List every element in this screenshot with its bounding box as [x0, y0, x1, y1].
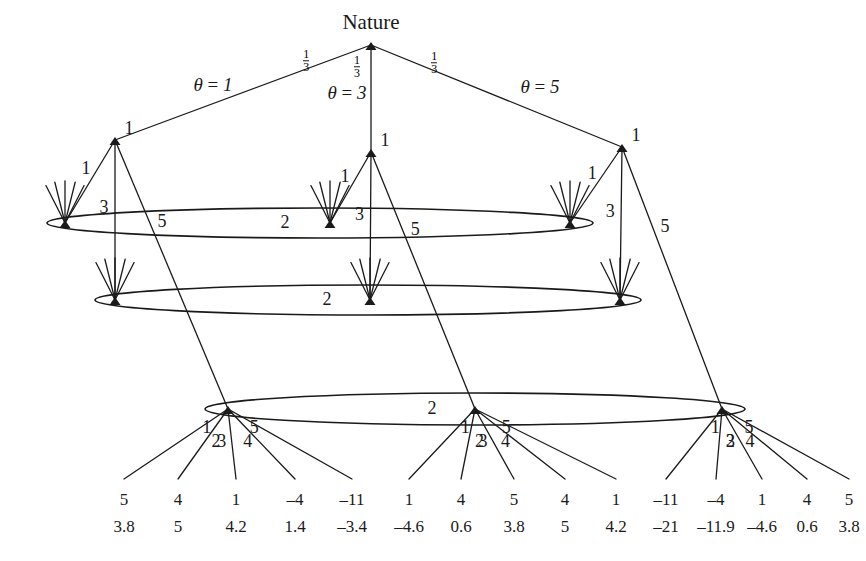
payoff-top-group-middle-4: 4: [561, 490, 570, 510]
payoff-top-group-left-1: 5: [120, 490, 129, 510]
terminal-action-label-group-left-3: 3: [217, 431, 226, 452]
payoff-top-group-left-3: 1: [232, 490, 241, 510]
terminal-action-label-group-right-1: 1: [711, 417, 720, 438]
iset-msg-3-stub-1-4: [370, 263, 389, 300]
nature-root-label: Nature: [342, 10, 399, 35]
iset-msg-5-node-0: [223, 406, 234, 414]
payoff-bottom-group-left-5: –3.4: [337, 517, 367, 537]
payoff-top-group-middle-5: 1: [612, 490, 621, 510]
iset-msg-1-stub-1-1: [320, 182, 330, 223]
payoff-bottom-group-middle-5: 4.2: [605, 517, 626, 537]
payoff-bottom-group-right-2: –11.9: [697, 517, 735, 537]
payoff-top-group-middle-3: 5: [510, 490, 519, 510]
payoff-top-group-middle-1: 1: [405, 490, 414, 510]
p1-action-label-p1-middle-1: 1: [341, 166, 350, 187]
terminal-edge-group-middle-4: [475, 409, 565, 479]
iset-msg-3-player-label: 2: [323, 289, 332, 310]
game-tree-figure: Nature 13θ = 113θ = 313θ = 5113511351135…: [0, 0, 866, 561]
payoff-bottom-group-left-2: 5: [174, 517, 183, 537]
iset-msg-1-stub-1-3: [330, 182, 340, 223]
iset-msg-3-node-2: [615, 297, 626, 305]
p1-action-label-p1-right-1: 1: [588, 162, 597, 183]
payoff-bottom-group-right-4: 0.6: [796, 517, 817, 537]
iset-msg-5-player-label: 2: [428, 398, 437, 419]
iset-msg-1-player-label: 2: [281, 212, 290, 233]
iset-msg-3-stub-1-1: [360, 259, 370, 300]
terminal-edge-group-middle-5: [475, 409, 616, 479]
p1-action-label-p1-left-5: 5: [157, 210, 166, 231]
nature-branch-right: [371, 45, 622, 147]
payoff-bottom-group-right-3: –4.6: [747, 517, 777, 537]
terminal-action-label-group-left-5: 5: [250, 417, 259, 438]
iset-msg-3-node-1: [365, 297, 376, 305]
iset-msg-5-node-1: [470, 406, 481, 414]
p1-action-label-p1-left-3: 3: [100, 197, 109, 218]
iset-msg-1-node-1: [325, 220, 336, 228]
payoff-top-group-left-5: –11: [340, 490, 365, 510]
terminal-action-label-group-left-1: 1: [202, 417, 211, 438]
iset-msg-1-ellipse: [47, 208, 593, 238]
payoff-bottom-group-right-1: –21: [653, 517, 679, 537]
payoff-top-group-right-3: 1: [758, 490, 767, 510]
terminal-action-label-group-middle-1: 1: [461, 417, 470, 438]
p1-action-edge-p1-right-5: [622, 147, 722, 409]
payoff-bottom-group-left-3: 4.2: [225, 517, 246, 537]
theta-label-middle: θ = 3: [327, 82, 366, 104]
iset-msg-1-node-0: [60, 220, 71, 228]
terminal-edge-group-left-3: [228, 409, 236, 479]
iset-msg-5-node-2: [717, 406, 728, 414]
payoff-top-group-right-4: 4: [803, 490, 812, 510]
terminal-action-label-group-right-3: 3: [726, 431, 735, 452]
payoff-top-group-right-5: 5: [845, 490, 854, 510]
game-tree-canvas: [0, 0, 866, 561]
iset-msg-3-stub-1-3: [370, 259, 380, 300]
player1-label-p1-middle: 1: [381, 130, 390, 151]
iset-msg-1-node-2: [565, 220, 576, 228]
p1-action-label-p1-right-3: 3: [606, 201, 615, 222]
payoff-bottom-group-left-4: 1.4: [284, 517, 305, 537]
p1-action-edge-p1-left-5: [115, 140, 228, 409]
payoff-bottom-group-middle-4: 5: [561, 517, 570, 537]
p1-action-label-p1-middle-5: 5: [411, 219, 420, 240]
terminal-action-label-group-middle-3: 3: [478, 431, 487, 452]
terminal-action-label-group-middle-5: 5: [502, 417, 511, 438]
iset-msg-1-stub-1-0: [311, 186, 330, 223]
terminal-edge-group-right-5: [722, 409, 849, 479]
p1-action-label-p1-right-5: 5: [661, 215, 670, 236]
payoff-top-group-middle-2: 4: [457, 490, 466, 510]
iset-msg-3-stub-1-0: [351, 263, 370, 300]
payoff-bottom-group-middle-1: –4.6: [394, 517, 424, 537]
payoff-bottom-group-right-5: 3.8: [838, 517, 859, 537]
p1-action-edge-p1-middle-5: [371, 152, 475, 409]
p1-action-label-p1-left-1: 1: [82, 158, 91, 179]
payoff-bottom-group-left-1: 3.8: [113, 517, 134, 537]
iset-msg-1-stub-0-1: [55, 182, 65, 223]
payoff-top-group-left-4: –4: [287, 490, 304, 510]
p1-action-label-p1-middle-3: 3: [355, 204, 364, 225]
iset-msg-3-node-0: [110, 297, 121, 305]
payoff-top-group-left-2: 4: [174, 490, 183, 510]
payoff-top-group-right-1: –11: [654, 490, 679, 510]
payoff-bottom-group-middle-3: 3.8: [503, 517, 524, 537]
iset-msg-1-stub-1-4: [330, 186, 349, 223]
player1-node-p1-middle: [366, 149, 377, 157]
theta-label-left: θ = 1: [193, 74, 232, 96]
payoff-bottom-group-middle-2: 0.6: [450, 517, 471, 537]
player1-label-p1-left: 1: [125, 118, 134, 139]
payoff-top-group-right-2: –4: [708, 490, 725, 510]
nature-prob-middle: 13: [352, 54, 362, 79]
theta-label-right: θ = 5: [520, 76, 559, 98]
nature-prob-left: 13: [301, 48, 311, 73]
terminal-action-label-group-right-5: 5: [745, 417, 754, 438]
player1-label-p1-right: 1: [632, 125, 641, 146]
nature-prob-right: 13: [429, 50, 439, 75]
